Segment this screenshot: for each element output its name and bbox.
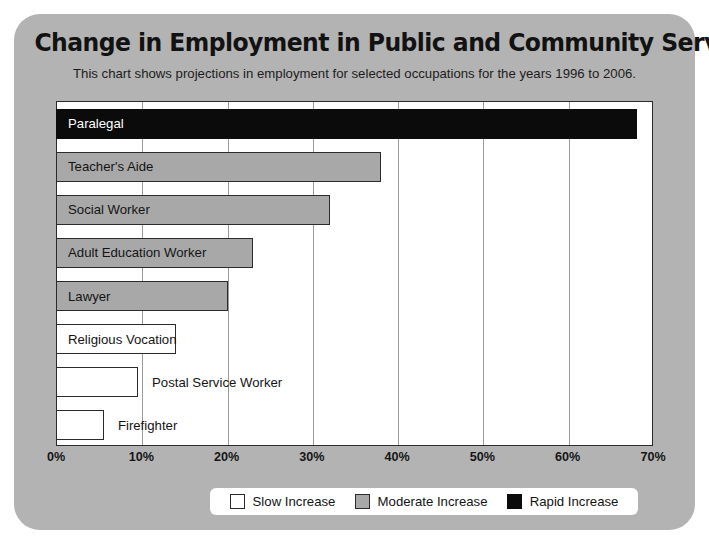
bar[interactable]: Social Worker [56, 195, 330, 225]
bar[interactable]: Teacher's Aide [56, 152, 381, 182]
x-tick-label: 60% [555, 450, 580, 464]
x-tick-label: 70% [640, 450, 665, 464]
legend-swatch-icon [507, 494, 522, 509]
bar[interactable] [56, 410, 104, 440]
x-tick-label: 30% [299, 450, 324, 464]
x-axis: 0%10%20%30%40%50%60%70% [56, 450, 653, 470]
x-tick-label: 0% [47, 450, 65, 464]
x-tick-label: 40% [385, 450, 410, 464]
bar[interactable]: Religious Vocation [56, 324, 176, 354]
bar-row: Lawyer [57, 275, 652, 318]
legend-label: Rapid Increase [530, 494, 619, 509]
bar[interactable] [56, 367, 138, 397]
bar-label: Teacher's Aide [57, 159, 153, 174]
bar-row: Adult Education Worker [57, 231, 652, 274]
bar-label: Firefighter [118, 418, 177, 433]
x-tick-label: 20% [214, 450, 239, 464]
chart-title: Change in Employment in Public and Commu… [34, 28, 674, 57]
x-tick-label: 50% [470, 450, 495, 464]
chart-legend: Slow IncreaseModerate IncreaseRapid Incr… [210, 488, 638, 515]
legend-swatch-icon [355, 494, 370, 509]
legend-item[interactable]: Rapid Increase [507, 494, 619, 509]
bar-row: Religious Vocation [57, 318, 652, 361]
legend-item[interactable]: Moderate Increase [355, 494, 488, 509]
bar-row: Firefighter [57, 404, 652, 447]
legend-label: Slow Increase [253, 494, 336, 509]
bar[interactable]: Adult Education Worker [56, 238, 253, 268]
bar-label: Religious Vocation [57, 332, 177, 347]
bar-label: Paralegal [57, 116, 124, 131]
bar-row: Paralegal [57, 102, 652, 145]
bar[interactable]: Paralegal [56, 109, 637, 139]
bar-label: Adult Education Worker [57, 245, 206, 260]
x-tick-label: 10% [129, 450, 154, 464]
legend-label: Moderate Increase [378, 494, 488, 509]
legend-item[interactable]: Slow Increase [230, 494, 336, 509]
legend-swatch-icon [230, 494, 245, 509]
chart-subtitle: This chart shows projections in employme… [14, 66, 695, 81]
bar-label: Postal Service Worker [152, 375, 282, 390]
bar-row: Postal Service Worker [57, 361, 652, 404]
plot-area: ParalegalTeacher's AideSocial WorkerAdul… [56, 101, 653, 446]
bar-label: Lawyer [57, 289, 111, 304]
bar-row: Teacher's Aide [57, 145, 652, 188]
chart-panel: Change in Employment in Public and Commu… [14, 14, 695, 530]
bar[interactable]: Lawyer [56, 281, 228, 311]
bar-label: Social Worker [57, 202, 150, 217]
bar-row: Social Worker [57, 188, 652, 231]
